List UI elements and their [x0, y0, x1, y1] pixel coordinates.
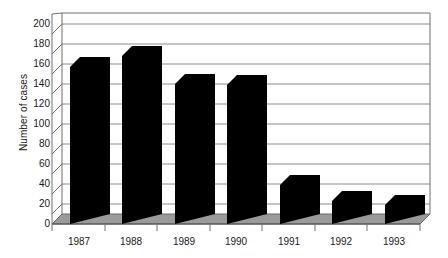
x-tick-label-1992: 1992 [314, 236, 368, 247]
bar-1987 [70, 57, 110, 224]
x-axis-ticks [52, 224, 420, 231]
bar-1990 [227, 75, 267, 224]
bar-1988 [122, 46, 162, 224]
y-axis-3d [52, 13, 62, 224]
x-tick-label-1990: 1990 [209, 236, 263, 247]
x-tick-label-1993: 1993 [367, 236, 421, 247]
x-tick-label-1988: 1988 [104, 236, 158, 247]
bars [70, 46, 425, 224]
x-tick-label-1989: 1989 [157, 236, 211, 247]
bar-1989 [175, 74, 215, 224]
x-tick-label-1987: 1987 [52, 236, 106, 247]
plot-area [0, 0, 448, 258]
bar-chart: Number of cases 200 180 160 140 120 100 … [0, 0, 448, 258]
x-tick-label-1991: 1991 [262, 236, 316, 247]
